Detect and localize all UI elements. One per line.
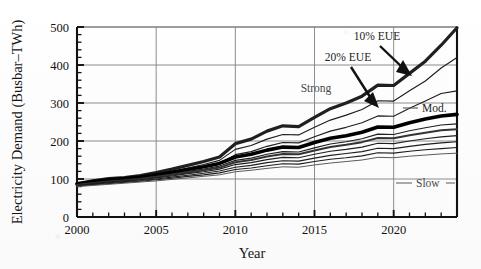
- y-axis-tick-labels: 0100200300400500: [50, 21, 69, 225]
- xtick-label-2000: 2000: [65, 223, 90, 237]
- y-axis-title: Electricity Demand (Busbar–TWh): [9, 20, 26, 225]
- xtick-label-2010: 2010: [223, 223, 248, 237]
- ytick-label-300: 300: [50, 97, 69, 111]
- series-line-3: [77, 114, 457, 184]
- annotation-20-percent-eue-label: 20% EUE: [325, 51, 371, 63]
- plot-frame: [77, 27, 457, 217]
- annotation-moderate: Mod.: [403, 102, 447, 114]
- x-axis-tick-labels: 20002005201020152020: [65, 223, 407, 237]
- ytick-label-400: 400: [50, 59, 69, 73]
- annotation-slow-label: Slow: [416, 177, 440, 189]
- ytick-label-200: 200: [50, 135, 69, 149]
- annotation-10-percent-eue-label: 10% EUE: [354, 30, 400, 42]
- ytick-label-500: 500: [50, 21, 69, 35]
- ytick-label-100: 100: [50, 173, 69, 187]
- y-axis-ticks: [77, 27, 84, 217]
- figure-container: 0100200300400500 20002005201020152020 El…: [0, 0, 481, 269]
- annotation-strong-label: Strong: [301, 82, 332, 95]
- x-axis-title: Year: [239, 245, 266, 261]
- annotation-moderate-label: Mod.: [422, 102, 447, 114]
- xtick-label-2020: 2020: [381, 223, 406, 237]
- data-series-layer: [77, 28, 457, 187]
- xtick-label-2005: 2005: [144, 223, 169, 237]
- xtick-label-2015: 2015: [302, 223, 327, 237]
- electricity-demand-line-chart: 0100200300400500 20002005201020152020 El…: [0, 0, 481, 269]
